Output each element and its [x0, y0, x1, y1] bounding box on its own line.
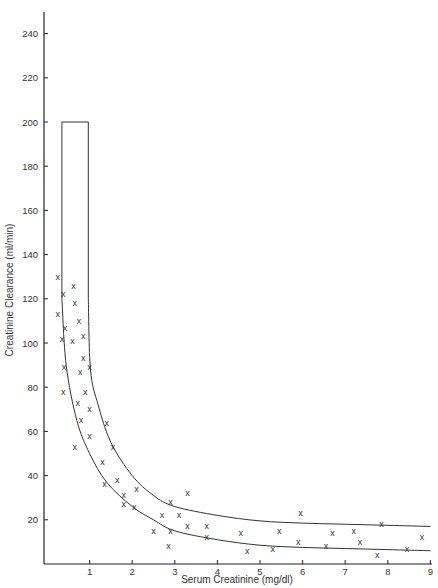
data-point-x-marker: x [62, 362, 67, 372]
data-point-x-marker: x [78, 367, 83, 377]
data-point-x-marker: x [205, 521, 210, 531]
data-point-x-marker: x [111, 442, 116, 452]
data-point-x-marker: x [55, 309, 60, 319]
data-point-x-marker: x [79, 415, 84, 425]
data-point-x-marker: x [151, 526, 156, 536]
y-tick-label: 240 [22, 28, 38, 39]
data-point-x-marker: x [330, 528, 335, 538]
x-axis-title: Serum Creatinine (mg/dl) [181, 574, 293, 585]
data-point-x-marker: x [166, 541, 171, 551]
data-point-x-marker: x [160, 510, 165, 520]
data-point-x-marker: x [185, 488, 190, 498]
data-point-x-marker: x [168, 526, 173, 536]
y-tick-label: 20 [27, 514, 38, 525]
data-point-x-marker: x [134, 484, 139, 494]
data-point-x-marker: x [420, 532, 425, 542]
data-point-x-marker: x [177, 510, 182, 520]
data-point-x-marker: x [205, 532, 210, 542]
data-point-x-marker: x [296, 537, 301, 547]
data-point-x-marker: x [75, 398, 80, 408]
y-tick-label: 160 [22, 205, 38, 216]
y-tick-label: 120 [22, 293, 38, 304]
y-tick-label: 100 [22, 338, 38, 349]
data-point-x-marker: x [102, 479, 107, 489]
data-point-x-marker: x [168, 497, 173, 507]
x-tick-label: 2 [130, 566, 135, 577]
data-point-x-marker: x [245, 546, 250, 556]
data-point-x-marker: x [81, 331, 86, 341]
lower-limit-curve [62, 299, 430, 551]
data-point-x-marker: x [104, 418, 109, 428]
x-tick-label: 8 [385, 566, 390, 577]
y-tick-label: 200 [22, 117, 38, 128]
data-point-x-marker: x [132, 502, 137, 512]
normal-range-band [62, 122, 430, 551]
x-tick-label: 3 [172, 566, 177, 577]
data-point-x-marker: x [83, 387, 88, 397]
data-point-x-marker: x [72, 298, 77, 308]
data-point-x-marker: x [60, 334, 65, 344]
data-point-x-marker: x [375, 550, 380, 560]
y-tick-label: 60 [27, 426, 38, 437]
y-tick-label: 220 [22, 72, 38, 83]
data-point-x-marker: x [121, 499, 126, 509]
data-point-x-marker: x [100, 457, 105, 467]
y-tick-label: 80 [27, 382, 38, 393]
data-point-x-marker: x [77, 316, 82, 326]
data-point-x-marker: x [87, 404, 92, 414]
data-point-x-marker: x [81, 353, 86, 363]
data-point-x-marker: x [87, 362, 92, 372]
data-point-x-marker: x [55, 272, 60, 282]
data-point-x-marker: x [61, 289, 66, 299]
data-point-x-marker: x [72, 442, 77, 452]
data-point-x-marker: x [61, 387, 66, 397]
x-tick-label: 9 [428, 566, 433, 577]
y-tick-label: 40 [27, 470, 38, 481]
y-tick-label: 180 [22, 161, 38, 172]
data-point-x-marker: x [298, 508, 303, 518]
data-point-x-marker: x [87, 431, 92, 441]
data-point-x-marker: x [115, 475, 120, 485]
data-point-x-marker: x [351, 526, 356, 536]
scatter-chart: 20406080100120140160180200220240 1234567… [0, 0, 438, 588]
data-point-x-marker: x [324, 541, 329, 551]
data-point-x-marker: x [185, 521, 190, 531]
data-point-x-marker: x [358, 537, 363, 547]
x-tick-label: 7 [343, 566, 348, 577]
data-point-x-marker: x [277, 526, 282, 536]
axes: 20406080100120140160180200220240 1234567… [22, 12, 433, 577]
data-point-x-marker: x [239, 528, 244, 538]
data-point-x-marker: x [405, 544, 410, 554]
x-tick-label: 6 [300, 566, 305, 577]
data-points: xxxxxxxxxxxxxxxxxxxxxxxxxxxxxxxxxxxxxxxx… [55, 272, 424, 560]
data-point-x-marker: x [71, 281, 76, 291]
y-tick-label: 140 [22, 249, 38, 260]
data-point-x-marker: x [70, 336, 75, 346]
x-tick-label: 1 [87, 566, 92, 577]
data-point-x-marker: x [63, 323, 68, 333]
upper-limit-curve [88, 299, 430, 527]
data-point-x-marker: x [271, 544, 276, 554]
y-axis-title: Creatinine Clearance (ml/min) [4, 224, 15, 357]
data-point-x-marker: x [379, 519, 384, 529]
